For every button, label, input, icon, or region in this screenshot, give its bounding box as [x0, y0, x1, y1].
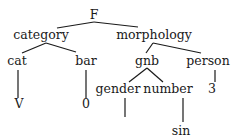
node-3: 3	[208, 83, 216, 96]
node-person: person	[186, 55, 229, 68]
node-cat: cat	[7, 55, 26, 68]
node-gnb: gnb	[135, 55, 159, 68]
tree-edge	[153, 43, 201, 53]
node-F: F	[90, 9, 99, 22]
node-category: category	[13, 29, 68, 42]
node-V: V	[14, 98, 23, 111]
tree-edges	[0, 0, 233, 139]
tree-edge	[22, 43, 46, 53]
tree-edge	[46, 43, 76, 52]
node-bar: bar	[75, 55, 96, 68]
tree-edge	[146, 43, 153, 53]
node-number: number	[143, 83, 192, 96]
node-morphology: morphology	[116, 29, 192, 42]
node-sin: sin	[172, 125, 190, 138]
node-0: 0	[82, 98, 90, 111]
node-gender: gender	[96, 83, 141, 96]
